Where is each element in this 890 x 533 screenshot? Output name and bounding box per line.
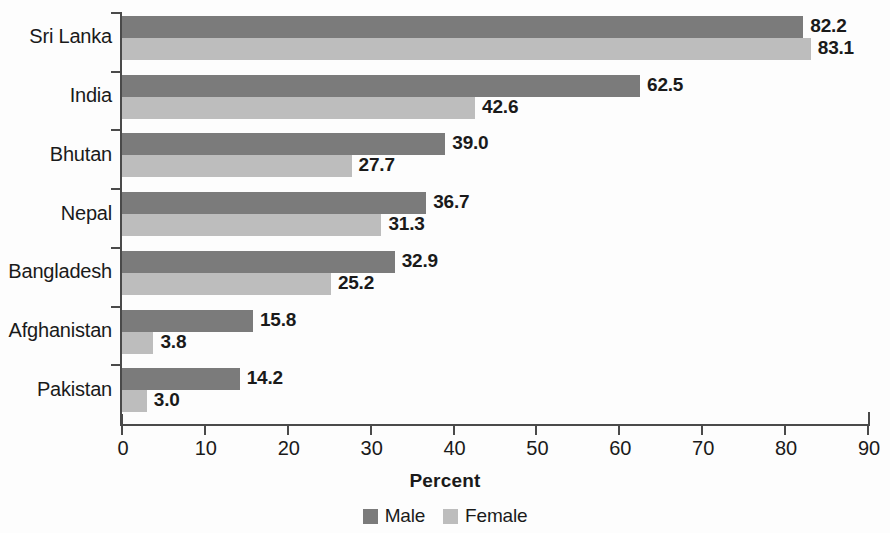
bar-male (122, 75, 640, 97)
bar-value-label-female: 3.0 (154, 389, 180, 411)
x-axis-tick (701, 426, 703, 435)
bar-group: 62.542.6 (122, 71, 868, 130)
x-axis-tick (287, 426, 289, 435)
bar-male (122, 368, 240, 390)
x-axis-tick-label: 60 (590, 437, 650, 460)
category-label: Bhutan (0, 143, 112, 166)
bar-female (122, 332, 153, 354)
legend-swatch (363, 509, 378, 524)
x-axis-tick (867, 426, 869, 435)
x-axis-tick (535, 426, 537, 435)
bar-male (122, 192, 426, 214)
x-axis-tick (618, 426, 620, 435)
legend-item: Male (363, 505, 425, 527)
legend-label: Female (465, 505, 527, 527)
x-axis-end-cap (868, 412, 870, 426)
x-axis-tick-label: 0 (93, 437, 153, 460)
y-axis-tick (111, 188, 121, 190)
category-label: Pakistan (0, 378, 112, 401)
bar-value-label-female: 27.7 (359, 154, 395, 176)
bar-group: 14.23.0 (122, 364, 868, 423)
bar-female (122, 273, 331, 295)
legend-label: Male (385, 505, 425, 527)
plot-area: 82.283.162.542.639.027.736.731.332.925.2… (122, 12, 868, 423)
bar-value-label-female: 3.8 (160, 331, 186, 353)
bar-chart: Sri LankaIndiaBhutanNepalBangladeshAfgha… (0, 0, 890, 533)
bar-group: 82.283.1 (122, 12, 868, 71)
x-axis-tick-label: 90 (839, 437, 890, 460)
x-axis-tick-label: 80 (756, 437, 816, 460)
x-axis-tick-label: 40 (425, 437, 485, 460)
legend-swatch (443, 509, 458, 524)
x-axis-tick-label: 50 (507, 437, 567, 460)
bar-female (122, 214, 381, 236)
x-axis-tick (453, 426, 455, 435)
bar-value-label-female: 31.3 (388, 213, 424, 235)
x-axis-tick-label: 70 (673, 437, 733, 460)
bar-value-label-male: 14.2 (247, 367, 283, 389)
y-axis-category-labels: Sri LankaIndiaBhutanNepalBangladeshAfgha… (0, 12, 112, 423)
x-axis-tick (204, 426, 206, 435)
bar-group: 32.925.2 (122, 247, 868, 306)
bar-group: 15.83.8 (122, 306, 868, 365)
x-axis-tick (370, 426, 372, 435)
x-axis-title: Percent (0, 470, 890, 492)
x-axis-tick (121, 414, 123, 435)
category-label: Sri Lanka (0, 25, 112, 48)
x-axis-tick (784, 426, 786, 435)
bar-group: 39.027.7 (122, 129, 868, 188)
category-label: Nepal (0, 202, 112, 225)
chart-legend: MaleFemale (0, 505, 890, 527)
bar-value-label-male: 82.2 (810, 15, 846, 37)
bar-male (122, 16, 803, 38)
x-axis-tick-label: 30 (342, 437, 402, 460)
y-axis-tick (111, 247, 121, 249)
bar-value-label-male: 32.9 (402, 250, 438, 272)
bar-value-label-male: 62.5 (647, 74, 683, 96)
y-axis-tick (111, 364, 121, 366)
x-axis-line (120, 424, 870, 426)
bar-male (122, 310, 253, 332)
y-axis-tick (111, 306, 121, 308)
legend-item: Female (443, 505, 527, 527)
bar-group: 36.731.3 (122, 188, 868, 247)
bar-female (122, 38, 811, 60)
category-label: Bangladesh (0, 260, 112, 283)
x-axis-tick-label: 10 (176, 437, 236, 460)
bar-male (122, 133, 445, 155)
y-axis-tick (111, 12, 121, 14)
bar-male (122, 251, 395, 273)
bar-value-label-male: 39.0 (452, 132, 488, 154)
bar-value-label-male: 15.8 (260, 309, 296, 331)
category-label: India (0, 84, 112, 107)
y-axis-tick (111, 129, 121, 131)
bar-value-label-male: 36.7 (433, 191, 469, 213)
bar-value-label-female: 25.2 (338, 272, 374, 294)
bar-female (122, 155, 352, 177)
bar-female (122, 97, 475, 119)
bar-value-label-female: 83.1 (818, 37, 854, 59)
category-label: Afghanistan (0, 319, 112, 342)
y-axis-tick (111, 71, 121, 73)
x-axis-tick-label: 20 (259, 437, 319, 460)
bar-female (122, 390, 147, 412)
bar-value-label-female: 42.6 (482, 96, 518, 118)
